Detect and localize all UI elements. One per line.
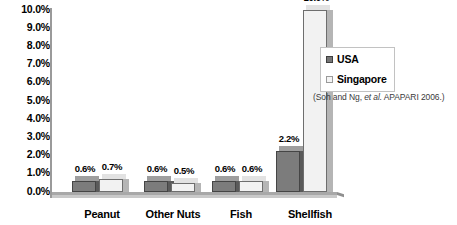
bar-other-nuts-singapore[interactable]: 0.5% xyxy=(171,183,195,192)
bar-front-face xyxy=(212,181,236,192)
bar-group-other-nuts: 0.6% 0.5% xyxy=(142,8,204,192)
allergy-prevalence-bar-chart: 10.0% 9.0% 8.0% 7.0% 6.0% 5.0% 4.0% 3.0%… xyxy=(0,0,457,225)
bar-peanut-singapore[interactable]: 0.7% xyxy=(99,179,123,192)
bar-value-fish-usa: 0.6% xyxy=(215,163,235,174)
legend-label-singapore: Singapore xyxy=(337,73,387,85)
axis-floor xyxy=(52,192,344,198)
bar-front-face xyxy=(72,181,96,192)
x-label-other-nuts: Other Nuts xyxy=(130,208,216,220)
bar-side-face xyxy=(195,183,201,192)
y-tick-2: 2.0% xyxy=(2,149,50,160)
bar-value-shellfish-singapore: 10.0% xyxy=(304,0,329,3)
bar-front-face xyxy=(171,183,195,192)
bar-value-peanut-usa: 0.6% xyxy=(75,163,95,174)
y-tick-0: 0.0% xyxy=(2,186,50,197)
bar-side-face xyxy=(123,179,129,192)
bar-front-face xyxy=(144,181,168,192)
legend-swatch-singapore-icon xyxy=(326,76,333,83)
chart-legend: USA Singapore xyxy=(320,47,395,92)
y-tick-9: 9.0% xyxy=(2,22,50,33)
bar-value-other-nuts-singapore: 0.5% xyxy=(174,165,194,176)
y-tick-5: 5.0% xyxy=(2,95,50,106)
bar-other-nuts-usa[interactable]: 0.6% xyxy=(144,181,168,192)
bar-front-face xyxy=(239,181,263,192)
plot-area: 0.6% 0.7% 0.6% xyxy=(52,8,344,198)
bar-peanut-usa[interactable]: 0.6% xyxy=(72,181,96,192)
floor-right-edge xyxy=(337,192,344,197)
citation-after: APAPARI 2006.) xyxy=(382,92,444,102)
bar-value-fish-singapore: 0.6% xyxy=(242,163,262,174)
bar-side-face xyxy=(263,181,269,192)
x-label-peanut: Peanut xyxy=(64,208,140,220)
citation-italic: et al. xyxy=(364,92,382,102)
y-tick-3: 3.0% xyxy=(2,131,50,142)
legend-item-singapore[interactable]: Singapore xyxy=(326,73,387,85)
y-tick-7: 7.0% xyxy=(2,58,50,69)
y-axis-labels: 10.0% 9.0% 8.0% 7.0% 6.0% 5.0% 4.0% 3.0%… xyxy=(0,0,50,225)
bar-value-peanut-singapore: 0.7% xyxy=(102,161,122,172)
y-tick-6: 6.0% xyxy=(2,76,50,87)
x-label-shellfish: Shellfish xyxy=(267,208,353,220)
bar-group-peanut: 0.6% 0.7% xyxy=(70,8,132,192)
legend-label-usa: USA xyxy=(337,53,359,65)
bar-front-face xyxy=(276,151,300,192)
bar-group-fish: 0.6% 0.6% xyxy=(210,8,272,192)
chart-citation: (Soh and Ng, et al. APAPARI 2006.) xyxy=(313,92,444,102)
y-tick-10: 10.0% xyxy=(2,4,50,15)
citation-before: (Soh and Ng, xyxy=(313,92,364,102)
x-label-fish: Fish xyxy=(208,208,274,220)
floor-front-face xyxy=(52,195,337,198)
y-tick-8: 8.0% xyxy=(2,40,50,51)
bar-fish-usa[interactable]: 0.6% xyxy=(212,181,236,192)
bar-front-face xyxy=(99,179,123,192)
y-tick-4: 4.0% xyxy=(2,113,50,124)
bar-shellfish-usa[interactable]: 2.2% xyxy=(276,151,300,192)
legend-item-usa[interactable]: USA xyxy=(326,53,387,65)
bar-value-other-nuts-usa: 0.6% xyxy=(147,163,167,174)
legend-swatch-usa-icon xyxy=(326,56,333,63)
bar-value-shellfish-usa: 2.2% xyxy=(279,133,299,144)
y-tick-1: 1.0% xyxy=(2,167,50,178)
bar-fish-singapore[interactable]: 0.6% xyxy=(239,181,263,192)
